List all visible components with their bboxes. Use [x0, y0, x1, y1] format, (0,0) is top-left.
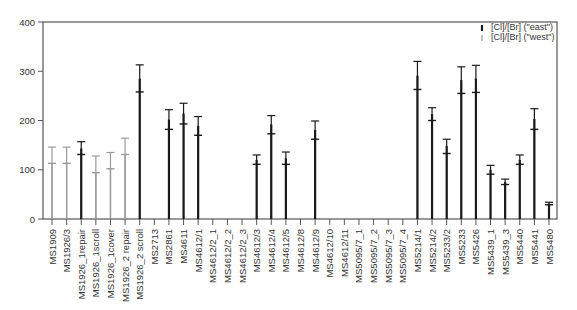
legend-label: [Cl]/[Br] ("west")	[491, 32, 554, 42]
error-bar	[457, 67, 465, 219]
error-bar	[121, 138, 129, 219]
x-tick-label: MS1926_2 repair	[120, 229, 131, 302]
x-tick-label: MS5095/7_2	[368, 229, 379, 283]
x-tick-label: MS4612/5	[280, 229, 291, 272]
error-bar	[443, 139, 451, 219]
x-tick-label: MS5439_1	[485, 229, 496, 275]
error-bar	[106, 153, 114, 219]
x-tick-label: MS4612/3	[251, 229, 262, 272]
error-bar	[136, 65, 144, 219]
x-tick-label: MS2713	[149, 229, 160, 264]
x-tick-label: MS1926_1cover	[105, 229, 116, 298]
y-tick-label: 100	[19, 164, 35, 175]
error-bar	[530, 109, 538, 219]
error-bar	[92, 156, 100, 219]
x-tick-label: MS5440	[514, 229, 525, 264]
x-tick-label: MS5214/1	[412, 229, 423, 272]
x-tick-label: MS4612/2_2	[222, 229, 233, 283]
x-tick-label: MS5233/2	[441, 229, 452, 272]
legend-label: [Cl]/[Br] ("east")	[491, 22, 553, 32]
error-bar	[487, 165, 495, 219]
x-tick-label: MS4612/11	[339, 229, 350, 277]
x-tick-label: MS4612/8	[295, 229, 306, 272]
legend: [Cl]/[Br] ("east")[Cl]/[Br] ("west")	[482, 22, 554, 42]
x-tick-label: MS1926_1scroll	[90, 229, 101, 297]
x-tick-label: MS4612/1	[193, 229, 204, 272]
y-axis: 0100200300400	[19, 17, 43, 225]
x-tick-label: MS1926/3	[61, 229, 72, 272]
error-bar	[472, 65, 480, 219]
x-axis: MS1909MS1926/3MS1926_1repairMS1926_1scro…	[47, 219, 555, 302]
error-bar	[165, 110, 173, 219]
x-tick-label: MS4612/4	[266, 229, 277, 272]
x-tick-label: MS5441	[529, 229, 540, 264]
error-bar-chart: 0100200300400 MS1909MS1926/3MS1926_1repa…	[0, 0, 577, 310]
error-bar	[267, 116, 275, 219]
y-tick-label: 0	[30, 214, 35, 225]
error-bar	[48, 147, 56, 219]
error-bar	[63, 147, 71, 219]
x-tick-label: MS5214/2	[427, 229, 438, 272]
y-tick-label: 200	[19, 115, 35, 126]
error-bars	[48, 61, 553, 219]
error-bar	[77, 142, 85, 219]
x-tick-label: MS5095/7_1	[353, 229, 364, 283]
x-tick-label: MS4612/10	[324, 229, 335, 278]
error-bar	[194, 117, 202, 219]
x-tick-label: MS1926_1repair	[76, 229, 87, 299]
error-bar	[311, 121, 319, 219]
error-bar	[545, 202, 553, 219]
y-tick-label: 400	[19, 17, 35, 28]
x-tick-label: MS5480	[544, 229, 555, 264]
x-tick-label: MS1926_2 scroll	[134, 229, 145, 300]
error-bar	[180, 103, 188, 219]
error-bar	[501, 179, 509, 219]
x-tick-label: MS5233	[456, 229, 467, 264]
error-bar	[253, 155, 261, 219]
x-tick-label: MS5426	[470, 229, 481, 264]
x-tick-label: MS5095/7_4	[397, 229, 408, 283]
x-tick-label: MS5095/7_3	[383, 229, 394, 283]
plot-border	[43, 22, 557, 219]
x-tick-label: MS1909	[47, 229, 58, 264]
x-tick-label: MS4612/9	[310, 229, 321, 272]
x-tick-label: MS4612/2_3	[237, 229, 248, 283]
x-tick-label: MS4611	[178, 229, 189, 264]
x-tick-label: MS4612/2_1	[207, 229, 218, 283]
error-bar	[413, 61, 421, 219]
y-tick-label: 300	[19, 66, 35, 77]
error-bar	[428, 108, 436, 219]
plot-frame	[43, 22, 557, 219]
error-bar	[516, 155, 524, 219]
x-tick-label: MS2861	[163, 229, 174, 264]
x-tick-label: MS5439_3	[500, 229, 511, 275]
error-bar	[282, 152, 290, 219]
